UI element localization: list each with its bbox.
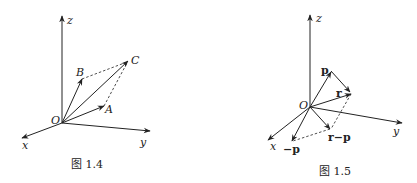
y-label: y bbox=[392, 125, 400, 138]
figure-1-5: z x y O p r r−p −p 图 1.5 bbox=[268, 12, 402, 178]
x-label: x bbox=[270, 140, 277, 153]
z-label: z bbox=[315, 12, 322, 25]
x-label: x bbox=[22, 139, 29, 152]
vector-r-label: r bbox=[336, 87, 342, 100]
dashed-rp-to-negp bbox=[293, 129, 330, 141]
point-A-label: A bbox=[104, 103, 113, 116]
point-C-label: C bbox=[131, 54, 140, 67]
vector-neg-p bbox=[292, 107, 310, 141]
figure-caption: 图 1.5 bbox=[319, 165, 351, 178]
origin-label: O bbox=[299, 99, 308, 112]
origin-label: O bbox=[51, 114, 60, 127]
vector-p-label: p bbox=[321, 64, 329, 77]
y-axis bbox=[62, 123, 150, 131]
vector-OC bbox=[62, 61, 128, 123]
figure-1-4: z x y O B C A 图 1.4 bbox=[22, 14, 150, 171]
point-B-label: B bbox=[75, 66, 84, 79]
vector-r-minus-p-label: r−p bbox=[328, 131, 351, 144]
vector-neg-p-label: −p bbox=[283, 143, 300, 156]
diagram-canvas: z x y O B C A 图 1.4 z x y O p r r−p −p 图… bbox=[0, 0, 417, 183]
y-label: y bbox=[139, 136, 147, 149]
z-label: z bbox=[66, 14, 73, 27]
y-axis bbox=[310, 107, 402, 123]
figure-caption: 图 1.4 bbox=[71, 158, 103, 171]
